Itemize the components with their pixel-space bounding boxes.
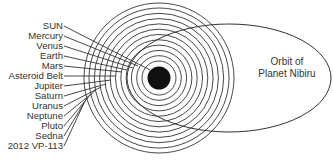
sun bbox=[148, 67, 171, 90]
nibiru-label-line2: Planet Nibiru bbox=[252, 68, 322, 80]
nibiru-label: Orbit of Planet Nibiru bbox=[252, 56, 322, 80]
leader-lines bbox=[64, 26, 150, 146]
nibiru-label-line1: Orbit of bbox=[252, 56, 322, 68]
label-2012-vp-113: 2012 VP-113 bbox=[8, 141, 63, 151]
